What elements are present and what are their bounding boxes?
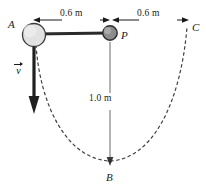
label-point-p: P <box>121 30 128 41</box>
label-dimension-vertical: 1.0 m <box>89 94 112 104</box>
point-b-marker <box>108 159 111 162</box>
label-point-c: C <box>192 22 199 33</box>
label-point-a: A <box>8 19 15 30</box>
velocity-arrow <box>29 42 40 114</box>
ball-p <box>103 26 117 40</box>
label-dimension-top-left: 0.6 m <box>60 9 83 19</box>
arrowhead-velocity <box>29 96 40 114</box>
velocity-symbol: v <box>14 65 23 76</box>
label-dimension-top-right: 0.6 m <box>137 9 160 19</box>
arrowhead-left-dim-start <box>33 17 40 23</box>
vector-arrow-overbar-icon <box>14 62 23 66</box>
dimension-line-vertical <box>107 42 114 166</box>
pendulum-figure: A P B C 0.6 m 0.6 m 1.0 m v <box>0 0 206 189</box>
label-velocity-vector: v <box>14 62 23 76</box>
arrowhead-right-dim-start <box>112 17 119 23</box>
label-point-b: B <box>106 172 113 183</box>
arrowhead-left-dim-end <box>103 17 110 23</box>
ball-a <box>23 24 46 47</box>
arrowhead-right-dim-end <box>182 17 189 23</box>
